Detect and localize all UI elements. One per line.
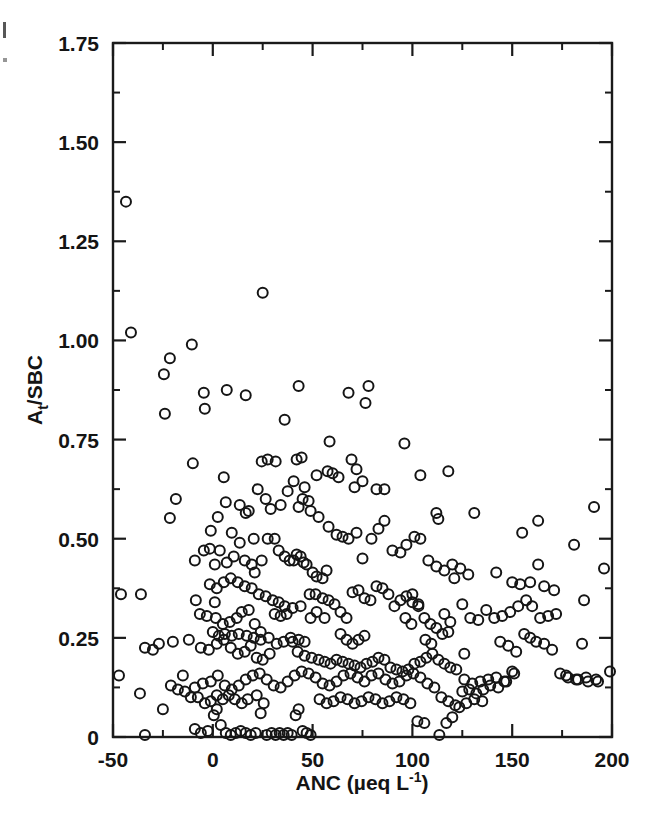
data-point [270, 609, 280, 619]
data-point [276, 611, 286, 621]
data-points [114, 197, 615, 740]
data-point [434, 730, 444, 740]
data-point [306, 613, 316, 623]
data-point [257, 556, 267, 566]
data-point [332, 530, 342, 540]
data-point [304, 496, 314, 506]
data-point [363, 381, 373, 391]
data-point [525, 577, 535, 587]
data-point [324, 522, 334, 532]
data-point [431, 508, 441, 518]
y-axis-title: At/SBC [23, 355, 51, 425]
data-point [249, 534, 259, 544]
data-point [579, 595, 589, 605]
data-point [126, 328, 136, 338]
data-point [210, 559, 220, 569]
data-point [320, 613, 330, 623]
data-point [258, 288, 268, 298]
y-tick-label: 1.75 [58, 32, 99, 55]
x-tick-label: 150 [495, 748, 530, 771]
data-point [447, 712, 457, 722]
data-point [140, 730, 150, 740]
data-point [539, 581, 549, 591]
data-point [336, 629, 346, 639]
data-point [391, 665, 401, 675]
data-point [569, 540, 579, 550]
data-point [276, 500, 286, 510]
data-point [289, 476, 299, 486]
y-tick-label: 0.75 [58, 429, 99, 452]
data-point [385, 663, 395, 673]
data-point [184, 635, 194, 645]
data-point [441, 718, 451, 728]
data-point [338, 532, 348, 542]
y-tick-label: 0.25 [58, 627, 99, 650]
data-point [116, 589, 126, 599]
data-point [219, 472, 229, 482]
scan-artifact-dot [3, 58, 7, 62]
y-tick-label: 1.25 [58, 230, 99, 253]
data-point [517, 528, 527, 538]
data-point [325, 437, 335, 447]
data-point [457, 599, 467, 609]
data-point [352, 528, 362, 538]
data-point [261, 494, 271, 504]
data-point [159, 369, 169, 379]
plot-frame [113, 43, 612, 737]
data-point [257, 456, 267, 466]
data-point [577, 639, 587, 649]
data-point [352, 464, 362, 474]
data-point [165, 513, 175, 523]
y-tick-label: 0.50 [58, 528, 99, 551]
data-point [365, 595, 375, 605]
data-point [443, 466, 453, 476]
data-point [549, 585, 559, 595]
axis-ticks [113, 43, 612, 737]
data-point [160, 409, 170, 419]
data-point [270, 534, 280, 544]
data-point [274, 546, 284, 556]
y-tick-label: 1.00 [58, 329, 99, 352]
svg-text:ANC (µeq L-1): ANC (µeq L-1) [295, 769, 428, 794]
data-point [347, 454, 357, 464]
data-point [222, 385, 232, 395]
data-point [437, 629, 447, 639]
data-point [158, 704, 168, 714]
data-point [344, 659, 354, 669]
data-point [383, 589, 393, 599]
data-point [265, 649, 275, 659]
data-point [348, 587, 358, 597]
data-point [121, 197, 131, 207]
data-point [252, 653, 262, 663]
data-point [358, 554, 368, 564]
data-point [379, 516, 389, 526]
data-point [280, 415, 290, 425]
data-point [366, 534, 376, 544]
data-point [605, 667, 615, 677]
data-point [358, 476, 368, 486]
data-point [491, 567, 501, 577]
x-tick-label: 0 [207, 748, 219, 771]
data-point [409, 532, 419, 542]
data-point [154, 639, 164, 649]
data-point [360, 593, 370, 603]
data-point [533, 516, 543, 526]
data-point [199, 546, 209, 556]
scan-artifact-mark [3, 22, 6, 38]
data-point [389, 601, 399, 611]
data-point [443, 627, 453, 637]
figure-canvas: -50050100150200 00.250.500.751.001.251.5… [0, 0, 651, 814]
data-point [344, 388, 354, 398]
data-point [190, 556, 200, 566]
data-point [419, 613, 429, 623]
data-point [599, 563, 609, 573]
data-point [533, 559, 543, 569]
data-point [168, 637, 178, 647]
data-point [415, 470, 425, 480]
data-point [336, 607, 346, 617]
data-point [306, 506, 316, 516]
y-tick-label: 1.50 [58, 131, 99, 154]
data-point [451, 665, 461, 675]
data-point [338, 657, 348, 667]
data-point [360, 398, 370, 408]
